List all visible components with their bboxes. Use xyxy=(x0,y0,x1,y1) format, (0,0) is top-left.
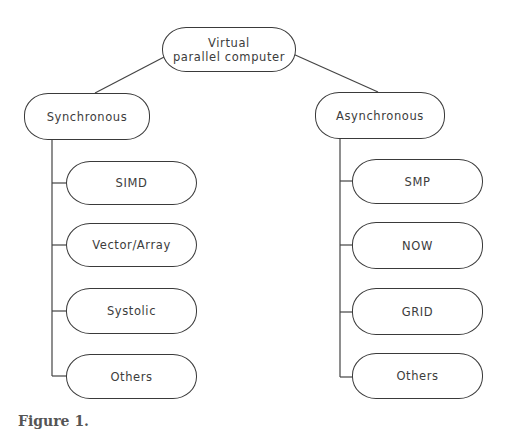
root-node-virtual-parallel-computer: Virtual parallel computer xyxy=(162,27,296,72)
leaf-node-others-sync: Others xyxy=(66,354,197,399)
leaf-label: SIMD xyxy=(116,176,148,190)
leaf-node-simd: SIMD xyxy=(66,161,197,205)
leaf-label: Others xyxy=(396,369,438,383)
leaf-label: SMP xyxy=(405,175,431,189)
branch-label: Asynchronous xyxy=(336,109,424,123)
leaf-node-smp: SMP xyxy=(352,159,483,204)
leaf-node-grid: GRID xyxy=(352,288,483,335)
leaf-label: GRID xyxy=(402,305,434,319)
leaf-label: Systolic xyxy=(107,304,156,318)
leaf-label: Vector/Array xyxy=(92,238,171,252)
leaf-label: NOW xyxy=(402,239,433,253)
branch-node-asynchronous: Asynchronous xyxy=(315,92,445,139)
root-label-line1: Virtual xyxy=(208,36,250,50)
leaf-node-others-async: Others xyxy=(352,353,483,399)
leaf-node-systolic: Systolic xyxy=(66,288,197,334)
leaf-node-now: NOW xyxy=(352,222,483,269)
branch-label: Synchronous xyxy=(47,110,128,124)
root-label-line2: parallel computer xyxy=(173,50,285,64)
branch-node-synchronous: Synchronous xyxy=(24,93,150,140)
leaf-label: Others xyxy=(110,370,152,384)
figure-caption: Figure 1. xyxy=(18,413,89,429)
leaf-node-vector-array: Vector/Array xyxy=(66,223,197,267)
